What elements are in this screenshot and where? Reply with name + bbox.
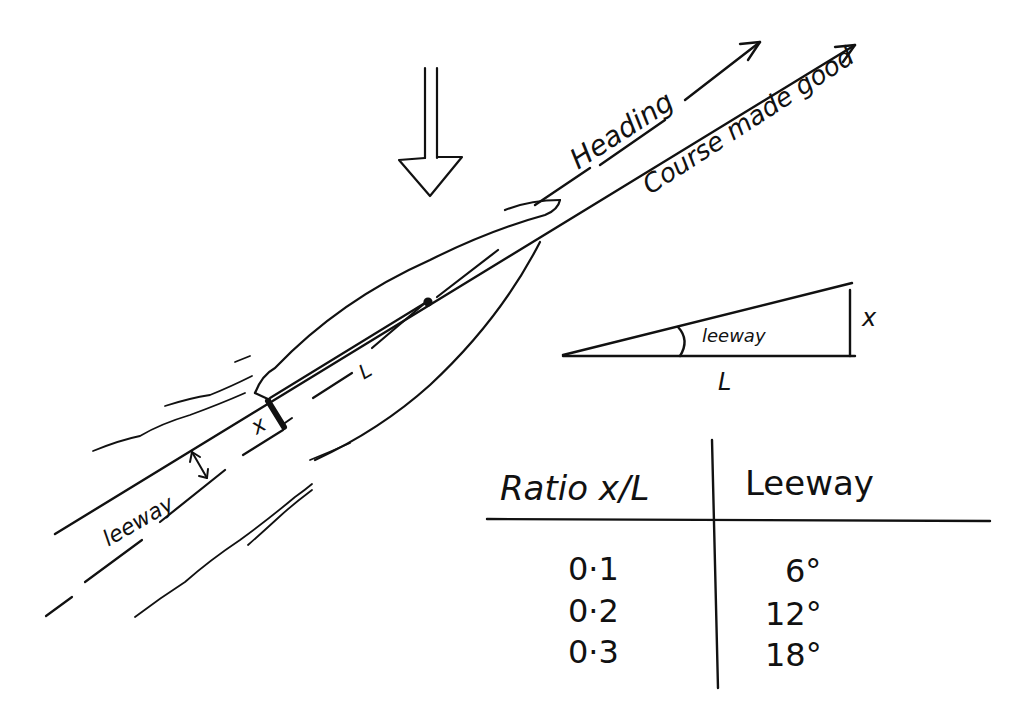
- leeway-diagram: x L leeway leeway x L Heading Course mad…: [0, 0, 1028, 720]
- wind-arrow-icon: [399, 68, 462, 196]
- table-cell-leeway: 18°: [765, 636, 822, 674]
- table-header-ratio: Ratio x/L: [500, 468, 649, 508]
- offset-x-label: x: [246, 411, 271, 440]
- course-made-good-label: Course made good: [637, 41, 860, 200]
- triangle-leeway-label: leeway: [702, 325, 766, 346]
- length-l-label: L: [354, 358, 376, 384]
- triangle-x-label: x: [861, 304, 877, 332]
- hull-centerline: [270, 250, 498, 398]
- table-cell-leeway: 12°: [765, 595, 822, 633]
- table-cell-ratio: 0·2: [568, 592, 619, 630]
- leeway-double-arrow-icon: [190, 452, 208, 478]
- table-cell-leeway: 6°: [785, 552, 821, 590]
- table-cell-ratio: 0·3: [568, 633, 619, 671]
- heading-extension-aft: [46, 430, 283, 616]
- triangle-l-label: L: [718, 368, 731, 396]
- ratio-leeway-table: Ratio x/L Leeway 0·1 6° 0·2 12° 0·3 18°: [487, 440, 990, 688]
- table-cell-ratio: 0·1: [568, 550, 619, 588]
- offset-marker: [268, 401, 292, 427]
- table-header-leeway: Leeway: [745, 463, 874, 503]
- hull-outline: [255, 200, 560, 460]
